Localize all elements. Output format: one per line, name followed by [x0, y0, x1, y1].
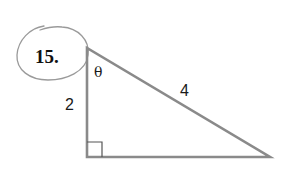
angle-theta-label: θ — [94, 65, 102, 79]
right-angle-marker — [87, 142, 102, 157]
hypotenuse-label: 4 — [180, 83, 189, 99]
diagram-canvas — [0, 0, 284, 181]
problem-number: 15. — [35, 47, 59, 66]
right-triangle — [87, 48, 270, 157]
vertical-leg-label: 2 — [65, 97, 74, 113]
